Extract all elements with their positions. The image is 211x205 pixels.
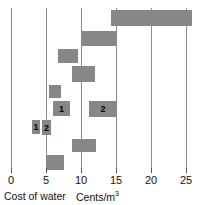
tick-mark-25 (186, 168, 187, 173)
tick-label-20: 20 (145, 174, 157, 186)
tick-mark-15 (116, 168, 117, 173)
plot-area: 1 2 1 2 (0, 0, 211, 171)
bar-label-1-lower: 1 (32, 123, 40, 132)
bar-label-2-upper: 2 (89, 105, 117, 114)
tick-label-0: 0 (8, 174, 14, 186)
bar-row-10 (72, 139, 96, 152)
bar-row-8: 1 (32, 120, 40, 134)
bar-row-4 (72, 66, 95, 82)
tick-label-15: 15 (110, 174, 122, 186)
tick-mark-5 (46, 168, 47, 173)
tick-mark-10 (81, 168, 82, 173)
x-axis-units-label: Cents/m3 (76, 190, 119, 203)
tick-label-5: 5 (43, 174, 49, 186)
tick-mark-0 (11, 168, 12, 173)
x-axis-units-exponent: 3 (115, 190, 119, 197)
bar-row-1 (111, 10, 192, 26)
bar-row-9: 2 (42, 120, 51, 135)
bar-label-1-upper: 1 (53, 104, 70, 113)
bar-row-6: 1 (53, 101, 70, 116)
bar-row-3 (58, 49, 78, 63)
gridline-15 (116, 8, 117, 171)
bar-row-5 (49, 85, 61, 98)
bar-label-2-lower: 2 (42, 123, 51, 132)
gridline-5 (46, 8, 47, 171)
tick-mark-20 (151, 168, 152, 173)
tick-label-25: 25 (180, 174, 192, 186)
gridline-25 (186, 8, 187, 171)
x-axis-units-text: Cents/m (76, 191, 115, 203)
x-axis: 0 5 10 15 20 25 Cost of water Cents/m3 (0, 168, 211, 205)
gridline-0 (11, 8, 12, 171)
gridline-20 (151, 8, 152, 171)
x-axis-label: Cost of water (4, 190, 66, 202)
chart-container: 1 2 1 2 0 5 10 15 20 25 Cost of water Ce… (0, 0, 211, 205)
bar-row-7: 2 (89, 101, 117, 117)
bar-row-2 (81, 31, 116, 46)
tick-label-10: 10 (75, 174, 87, 186)
